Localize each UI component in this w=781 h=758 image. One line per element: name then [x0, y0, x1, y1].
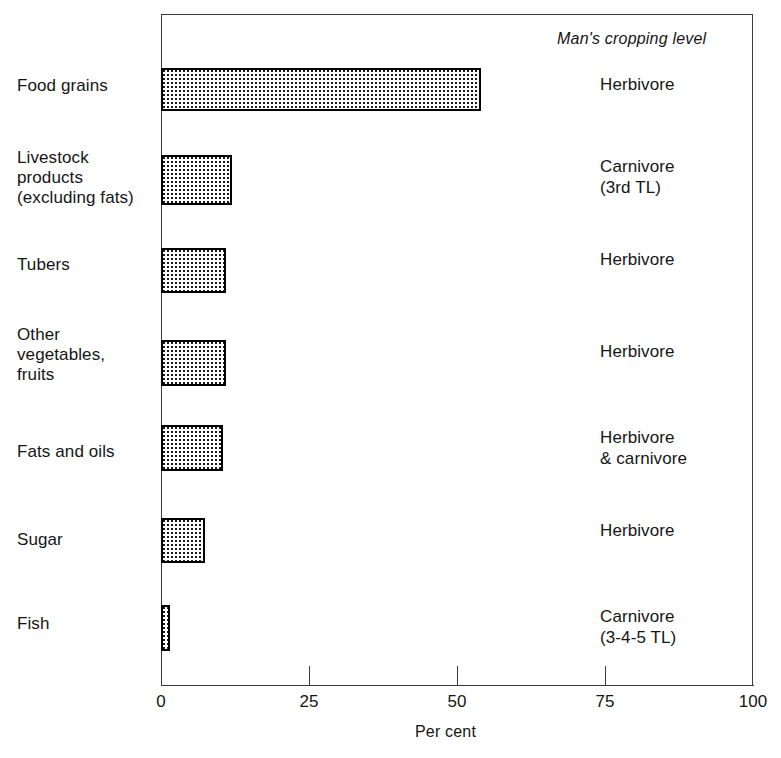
bar [161, 425, 223, 471]
cropping-level-line: & carnivore [600, 448, 760, 469]
category-label-line: Food grains [17, 76, 157, 96]
x-axis-tick-label: 100 [739, 692, 767, 712]
category-label-line: (excluding fats) [17, 188, 157, 208]
category-label: Livestockproducts(excluding fats) [17, 148, 157, 208]
x-axis-tick-label: 25 [300, 692, 319, 712]
x-axis-tick-label: 75 [596, 692, 615, 712]
category-label-line: Fish [17, 614, 157, 634]
cropping-level-line: Herbivore [600, 520, 760, 541]
bar [161, 68, 481, 111]
x-axis-tick [309, 666, 310, 685]
bar [161, 155, 232, 205]
x-axis-tick-label: 0 [156, 692, 165, 712]
cropping-level-line: Herbivore [600, 74, 760, 95]
x-axis-tick [457, 666, 458, 685]
x-axis-title-text: Per cent [415, 723, 476, 740]
category-label: Sugar [17, 530, 157, 550]
cropping-level-label: Herbivore [600, 520, 760, 541]
category-label-line: products [17, 168, 157, 188]
category-label: Fish [17, 614, 157, 634]
bar [161, 518, 205, 563]
category-label: Tubers [17, 255, 157, 275]
bar-chart-figure: Man's cropping level Food grainsHerbivor… [0, 0, 781, 758]
cropping-level-line: (3-4-5 TL) [600, 627, 760, 648]
cropping-level-label: Carnivore(3rd TL) [600, 156, 760, 198]
category-label-line: vegetables, [17, 345, 157, 365]
category-label: Fats and oils [17, 442, 157, 462]
x-axis-tick [605, 666, 606, 685]
x-axis-tick-label: 50 [448, 692, 467, 712]
category-label-line: Livestock [17, 148, 157, 168]
x-axis-title: Per cent [0, 723, 781, 741]
cropping-level-line: (3rd TL) [600, 177, 760, 198]
bar [161, 340, 226, 386]
cropping-level-label: Herbivore [600, 341, 760, 362]
cropping-level-line: Herbivore [600, 427, 760, 448]
cropping-level-line: Herbivore [600, 249, 760, 270]
annotation-column-title: Man's cropping level [557, 30, 706, 48]
category-label: Food grains [17, 76, 157, 96]
cropping-level-label: Herbivore [600, 249, 760, 270]
category-label-line: fruits [17, 365, 157, 385]
x-axis-line [161, 685, 754, 686]
category-label-line: Tubers [17, 255, 157, 275]
cropping-level-line: Carnivore [600, 156, 760, 177]
cropping-level-line: Herbivore [600, 341, 760, 362]
category-label-line: Fats and oils [17, 442, 157, 462]
bar [161, 248, 226, 293]
cropping-level-label: Herbivore [600, 74, 760, 95]
category-label-line: Other [17, 325, 157, 345]
cropping-level-label: Herbivore& carnivore [600, 427, 760, 469]
category-label-line: Sugar [17, 530, 157, 550]
category-label: Othervegetables,fruits [17, 325, 157, 385]
bar [161, 605, 170, 651]
cropping-level-label: Carnivore(3-4-5 TL) [600, 606, 760, 648]
cropping-level-line: Carnivore [600, 606, 760, 627]
